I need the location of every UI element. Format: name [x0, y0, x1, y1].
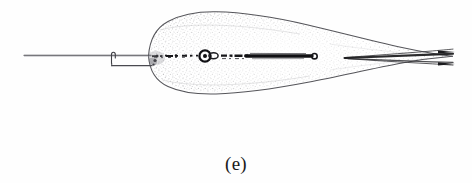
figure-caption: (e) [0, 152, 472, 176]
figure-panel: (e) [0, 0, 472, 183]
